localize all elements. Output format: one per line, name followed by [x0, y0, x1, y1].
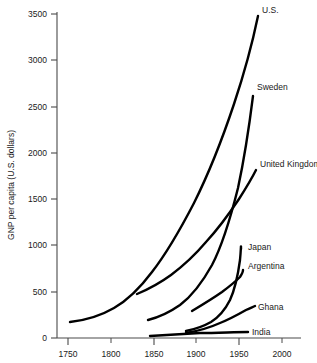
- x-tick-label: 1750: [59, 349, 78, 359]
- series-label-india: India: [252, 327, 271, 337]
- y-tick-label: 1000: [28, 240, 47, 250]
- y-axis-title: GNP per capita (U.S. dollars): [6, 130, 16, 240]
- series-label-sweden: Sweden: [257, 82, 288, 92]
- y-tick-label: 0: [42, 333, 47, 343]
- y-axis-ticks: [51, 14, 57, 338]
- y-tick-label: 2500: [28, 102, 47, 112]
- chart-plot-area: 3500 3000 2500 2000 1500 1000 500 0 1750…: [0, 0, 317, 363]
- series-curve-sweden: [148, 96, 253, 320]
- x-tick-label: 1800: [102, 349, 121, 359]
- series-label-argentina: Argentina: [248, 261, 285, 271]
- series-labels: U.S. Sweden United Kingdom Japan Argenti…: [248, 5, 317, 337]
- x-tick-label: 2000: [273, 349, 292, 359]
- series-label-ghana: Ghana: [258, 302, 284, 312]
- series-curve-us: [70, 16, 258, 322]
- y-tick-label: 500: [33, 287, 47, 297]
- y-tick-label: 2000: [28, 148, 47, 158]
- y-tick-label: 3500: [28, 9, 47, 19]
- series-curve-india: [150, 332, 248, 336]
- x-axis-tick-labels: 1750 1800 1850 1900 1950 2000: [59, 349, 292, 359]
- y-tick-label: 3000: [28, 55, 47, 65]
- x-tick-label: 1900: [187, 349, 206, 359]
- x-tick-label: 1950: [230, 349, 249, 359]
- x-tick-label: 1850: [145, 349, 164, 359]
- y-tick-label: 1500: [28, 194, 47, 204]
- series-curve-argentina: [192, 270, 243, 311]
- series-label-us: U.S.: [262, 5, 279, 15]
- series-curves: [70, 16, 258, 336]
- series-label-japan: Japan: [248, 242, 271, 252]
- x-axis-ticks: [68, 338, 282, 345]
- series-label-united-kingdom: United Kingdom: [260, 159, 317, 169]
- y-axis-tick-labels: 3500 3000 2500 2000 1500 1000 500 0: [28, 9, 47, 343]
- gnp-per-capita-chart: 3500 3000 2500 2000 1500 1000 500 0 1750…: [0, 0, 317, 363]
